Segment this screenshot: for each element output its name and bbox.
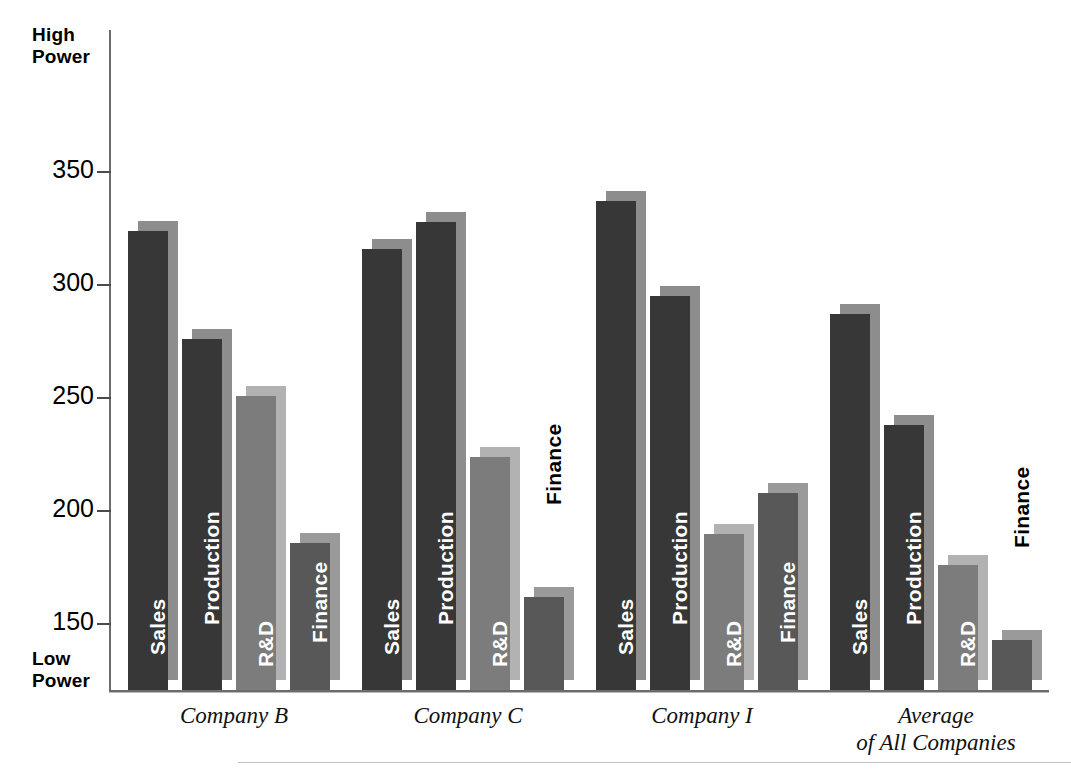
bar-front-face [650, 296, 690, 690]
bar-r-d: R&D [704, 524, 754, 690]
bar-finance: Finance [524, 587, 574, 690]
y-axis-tick-label: 300 [20, 268, 94, 297]
bar-sales: Sales [830, 304, 880, 690]
axis-low-power-label: Low Power [32, 648, 90, 692]
bar-side-face [1032, 630, 1042, 680]
y-axis-tick-label: 250 [20, 381, 94, 410]
bar-side-face [168, 221, 178, 680]
y-axis-tick-mark [97, 171, 111, 173]
axis-high-power-label: High Power [32, 24, 90, 68]
bar-sales: Sales [128, 221, 178, 690]
bar-side-face [690, 286, 700, 680]
bar-side-face [798, 483, 808, 680]
bar-finance: Finance [290, 533, 340, 690]
bar-side-face [330, 533, 340, 680]
group-caption: Company B [104, 702, 364, 729]
bar-production: Production [884, 415, 934, 690]
bar-finance: Finance [758, 483, 808, 690]
bar-production: Production [182, 329, 232, 690]
y-axis-tick-mark [97, 397, 111, 399]
bar-front-face [524, 597, 564, 690]
bar-side-face [456, 212, 466, 680]
y-axis-tick-mark [97, 623, 111, 625]
bar-front-face [992, 640, 1032, 690]
bar-side-face [978, 555, 988, 680]
bar-side-face [636, 191, 646, 680]
bar-r-d: R&D [470, 447, 520, 690]
bar-side-face [222, 329, 232, 680]
y-axis-tick-label: 350 [20, 155, 94, 184]
bar-sales: Sales [362, 239, 412, 690]
y-axis-tick-mark [97, 510, 111, 512]
bar-side-face [744, 524, 754, 680]
group-caption: Average of All Companies [806, 702, 1066, 756]
bar-side-face [402, 239, 412, 680]
group-caption: Company C [338, 702, 598, 729]
bar-production: Production [650, 286, 700, 690]
bar-r-d: R&D [236, 386, 286, 690]
x-axis-line-shadow [109, 692, 1049, 693]
bar-r-d: R&D [938, 555, 988, 690]
bar-sales: Sales [596, 191, 646, 690]
group-caption: Company I [572, 702, 832, 729]
y-axis-tick-mark [97, 284, 111, 286]
y-axis-tick-label: 150 [20, 607, 94, 636]
bar-finance: Finance [992, 630, 1042, 690]
bar-side-face [924, 415, 934, 680]
bar-side-face [510, 447, 520, 680]
bar-production: Production [416, 212, 466, 690]
bar-side-face [276, 386, 286, 680]
y-axis-tick-label: 200 [20, 494, 94, 523]
bar-side-face [564, 587, 574, 680]
footer-rule [238, 762, 1071, 763]
y-axis-line [109, 30, 111, 692]
bar-side-face [870, 304, 880, 680]
bar-chart: High Power Low Power 350300250200150 Sal… [0, 0, 1071, 775]
